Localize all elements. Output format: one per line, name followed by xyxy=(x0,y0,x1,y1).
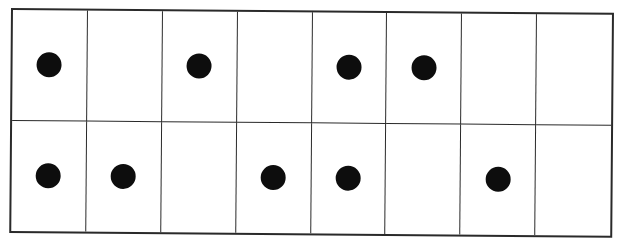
counter-dot xyxy=(37,52,62,77)
grid-cell-r2-c4 xyxy=(236,122,312,233)
grid-cell-r2-c3 xyxy=(161,122,237,233)
grid-cell-r2-c2 xyxy=(86,121,162,232)
counter-dot xyxy=(336,166,361,191)
grid-cell-r1-c1 xyxy=(12,10,88,121)
counter-dot xyxy=(187,54,212,79)
counter-dot xyxy=(336,55,361,80)
counter-dot xyxy=(111,164,136,189)
grid-cell-r2-c7 xyxy=(460,124,536,235)
worksheet-canvas xyxy=(0,0,629,247)
dot-grid xyxy=(9,8,614,238)
grid-cell-r1-c6 xyxy=(386,13,462,124)
grid-cell-r1-c5 xyxy=(312,12,388,123)
grid-cell-r1-c4 xyxy=(237,12,313,123)
counter-dot xyxy=(36,163,61,188)
counter-dot xyxy=(261,165,286,190)
grid-cell-r2-c6 xyxy=(386,123,462,234)
counter-dot xyxy=(485,167,510,192)
grid-cell-r1-c7 xyxy=(461,14,537,125)
grid-cell-r1-c8 xyxy=(536,14,612,125)
grid-cell-r1-c3 xyxy=(162,11,238,122)
grid-cell-r2-c5 xyxy=(311,123,387,234)
counter-dot xyxy=(411,55,436,80)
grid-cell-r1-c2 xyxy=(87,11,163,122)
grid-cell-r2-c1 xyxy=(11,121,87,232)
grid-cell-r2-c8 xyxy=(535,125,611,236)
